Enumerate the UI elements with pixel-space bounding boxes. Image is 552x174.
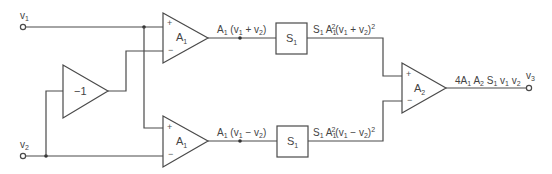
label-v2: v2 <box>20 140 29 151</box>
label-a1-bottom: A1 <box>176 136 187 149</box>
label-a1-top: A1 <box>176 32 187 45</box>
terminal-v3 <box>526 85 531 90</box>
label-squarer-bottom: S1 <box>287 136 298 149</box>
terminal-v1 <box>20 24 25 29</box>
signal-a1-diff: A1 (v1 − v2) <box>217 128 266 139</box>
wire-v1-to-bottom-amp <box>144 27 163 128</box>
sign-minus-a2: − <box>407 96 412 105</box>
wire-v2-to-inverter <box>46 91 63 156</box>
label-a2: A2 <box>414 83 425 96</box>
sign-minus-a1-top: − <box>168 46 173 55</box>
sign-minus-a1-bottom: − <box>168 150 173 159</box>
sign-plus-a1-top: + <box>167 19 172 28</box>
label-inverter: −1 <box>74 86 87 97</box>
signal-square-diff: S1 A12(v1 − v2)2 <box>313 126 375 139</box>
sign-plus-a1-bottom: + <box>167 123 172 132</box>
label-v3: v3 <box>526 71 535 82</box>
node-a1-top-out <box>238 36 242 40</box>
node-a1-bottom-out <box>238 139 242 143</box>
signal-output: 4A1 A2 S1 v1 v2 <box>455 76 521 87</box>
signal-square-sum: S1 A12(v1 + v2)2 <box>313 23 375 36</box>
wire-squarer-top-out <box>307 38 402 76</box>
sign-plus-a2: + <box>406 70 411 79</box>
label-squarer-top: S1 <box>286 33 297 46</box>
wire-inverter-out <box>108 51 163 91</box>
signal-a1-sum: A1 (v1 + v2) <box>217 25 266 36</box>
terminal-v2 <box>20 153 25 158</box>
label-v1: v1 <box>20 11 29 22</box>
